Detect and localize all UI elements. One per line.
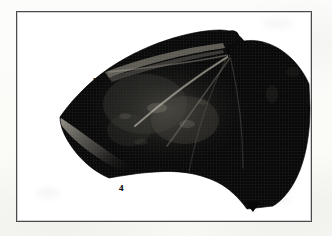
annotation-label-1: 1: [215, 31, 220, 40]
annotation-label-3: 3: [93, 77, 98, 86]
figure-plate: 1 2 3 4 5: [0, 0, 332, 236]
annotation-label-2: 2: [151, 48, 156, 57]
annotation-label-4: 4: [119, 184, 124, 193]
plate-frame: 1 2 3 4 5: [16, 11, 312, 222]
specimen-silhouette-svg: [17, 12, 312, 222]
specimen-image: [17, 12, 311, 221]
annotation-label-5: 5: [243, 221, 248, 222]
